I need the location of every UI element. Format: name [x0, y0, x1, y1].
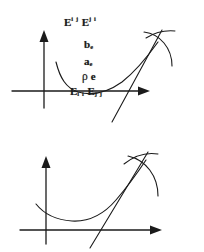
x-axis-arrowhead — [150, 226, 162, 235]
x-axis-arrowhead — [138, 87, 150, 96]
arc-curve-secondary — [124, 153, 158, 164]
panel-top-graphics — [0, 0, 204, 126]
y-axis-arrowhead — [42, 156, 51, 168]
label-rho-e: ρe — [82, 71, 96, 83]
diagram-panel-bottom: Ti jTj i bc ac ρc Ti iTj j — [0, 126, 204, 252]
y-axis-arrowhead — [40, 30, 49, 42]
two-panel-diagram-figure: Ei jEj i be ae ρe Ei iEj j — [0, 0, 204, 252]
arc-curve — [128, 156, 158, 196]
label-E-superscript-pair: Ei jEj i — [64, 16, 97, 28]
diagram-panel-top: Ei jEj i be ae ρe Ei iEj j — [0, 0, 204, 126]
tangent-line — [112, 30, 162, 122]
tangent-line — [90, 152, 148, 248]
main-curve — [36, 160, 146, 221]
label-b-e: be — [84, 39, 94, 51]
arc-curve-secondary — [146, 31, 175, 38]
label-E-subscript-pair: Ei iEj j — [70, 86, 103, 98]
panel-bottom-graphics — [0, 126, 204, 252]
label-a-e: ae — [84, 56, 93, 68]
